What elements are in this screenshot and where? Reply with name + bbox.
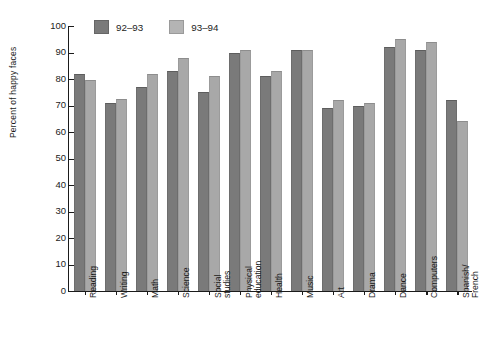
x-axis-label: Health (275, 273, 284, 298)
bar-group (198, 26, 220, 291)
bar (260, 76, 271, 291)
x-tick-mark (85, 291, 86, 295)
x-tick-mark (147, 291, 148, 295)
bar (322, 108, 333, 291)
chart-page: Percent of happy faces 92–93 93–94 01020… (0, 0, 483, 360)
bar (333, 100, 344, 291)
bar-series-container (68, 26, 472, 291)
y-tick-label: 0 (61, 285, 66, 296)
x-axis-label-line: Reading (89, 266, 98, 298)
y-tick-label: 80 (55, 73, 66, 84)
bar (198, 92, 209, 291)
x-tick-mark (333, 291, 334, 295)
y-tick-label: 50 (55, 152, 66, 163)
bar-group (229, 26, 251, 291)
bar (105, 103, 116, 291)
bar (74, 74, 85, 291)
x-axis-label-line: Computers (430, 256, 439, 298)
bar (240, 50, 251, 291)
bar-group (74, 26, 96, 291)
bar (302, 50, 313, 291)
y-tick-label: 100 (50, 20, 66, 31)
x-tick-mark (395, 291, 396, 295)
x-axis-label: Spanish/French (462, 265, 481, 298)
x-tick-mark (116, 291, 117, 295)
x-tick-mark (209, 291, 210, 295)
y-tick-0: 0 (34, 291, 74, 292)
x-axis-label: Music (306, 276, 315, 298)
x-axis-label: Drama (368, 272, 377, 298)
bar (85, 80, 96, 291)
bar-group (105, 26, 127, 291)
bar-group (136, 26, 158, 291)
x-axis-label-line: education (254, 261, 263, 298)
bar (229, 53, 240, 292)
bar (415, 50, 426, 291)
y-tick-label: 90 (55, 46, 66, 57)
y-tick-mark (69, 291, 74, 292)
bar-group (446, 26, 468, 291)
bar (136, 87, 147, 291)
x-tick-mark (240, 291, 241, 295)
x-axis-label-line: studies (223, 271, 232, 298)
x-axis-label-line: Music (306, 276, 315, 298)
x-axis-label-line: Art (337, 287, 346, 298)
y-tick-label: 30 (55, 205, 66, 216)
bar (426, 42, 437, 291)
y-tick-label: 20 (55, 232, 66, 243)
x-axis-label: Writing (120, 271, 129, 298)
bar (147, 74, 158, 291)
y-tick-label: 40 (55, 179, 66, 190)
x-tick-mark (364, 291, 365, 295)
bar-group (415, 26, 437, 291)
x-axis-label: Art (337, 287, 346, 298)
x-axis-label: Science (182, 267, 191, 298)
bar (446, 100, 457, 291)
bar (271, 71, 282, 291)
x-axis-label-line: Drama (368, 272, 377, 298)
x-axis-label-line: Health (275, 273, 284, 298)
y-tick-label: 10 (55, 258, 66, 269)
x-tick-mark (426, 291, 427, 295)
bar-group (291, 26, 313, 291)
bar-group (384, 26, 406, 291)
bar-group (260, 26, 282, 291)
x-axis-label-line: Math (151, 279, 160, 298)
x-axis-label: Socialstudies (214, 271, 233, 298)
bar (384, 47, 395, 291)
x-axis-label: Computers (430, 256, 439, 298)
x-axis-label-line: Science (182, 267, 191, 298)
bar (364, 103, 375, 291)
y-axis-title: Percent of happy faces (8, 0, 18, 138)
plot-area: 0102030405060708090100 (68, 26, 472, 291)
y-tick-label: 70 (55, 99, 66, 110)
bar (291, 50, 302, 291)
x-axis-label: Physicaleducation (245, 261, 264, 298)
bar-group (322, 26, 344, 291)
x-axis-label: Dance (399, 273, 408, 298)
x-tick-mark (457, 291, 458, 295)
bar-group (353, 26, 375, 291)
bar (395, 39, 406, 291)
bar (178, 58, 189, 291)
bar-group (167, 26, 189, 291)
x-tick-mark (302, 291, 303, 295)
bar (353, 106, 364, 292)
x-axis-label-line: Dance (399, 273, 408, 298)
x-axis-label: Reading (89, 266, 98, 298)
x-tick-mark (178, 291, 179, 295)
x-axis-label: Math (151, 279, 160, 298)
bar (167, 71, 178, 291)
bar (116, 99, 127, 291)
x-axis-label-line: French (472, 265, 481, 298)
y-tick-label: 60 (55, 126, 66, 137)
x-axis-label-line: Writing (120, 271, 129, 298)
x-tick-mark (271, 291, 272, 295)
bar (209, 76, 220, 291)
